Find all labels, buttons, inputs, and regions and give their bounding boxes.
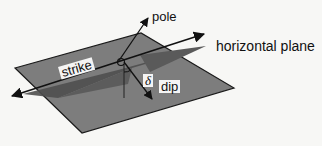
delta-label: δ	[143, 74, 153, 87]
dip-label: dip	[159, 80, 180, 93]
horizontal-plane-label: horizontal plane	[216, 39, 315, 53]
pole-label: pole	[152, 10, 177, 23]
